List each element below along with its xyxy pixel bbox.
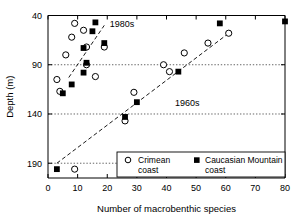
- data-point: [134, 99, 140, 105]
- x-axis-title: Number of macrobenthic species: [97, 203, 236, 214]
- y-tick-label-90: 90: [32, 60, 42, 70]
- trend-line-1980s: [69, 25, 105, 77]
- data-point: [131, 89, 137, 95]
- legend-marker-filled-square: [194, 157, 200, 163]
- y-tick-label-140: 140: [27, 109, 42, 119]
- x-tick-label-10: 10: [73, 183, 83, 193]
- annotation-1960s: 1960s: [175, 98, 200, 108]
- x-tick-label-80: 80: [280, 183, 290, 193]
- data-point: [282, 19, 288, 25]
- trend-line-1960s: [57, 33, 229, 163]
- data-point: [63, 52, 69, 58]
- y-axis-title: Depth (m): [4, 76, 15, 118]
- x-tick-label-0: 0: [45, 183, 50, 193]
- data-point: [69, 34, 75, 40]
- data-point: [226, 30, 232, 36]
- x-tick-label-30: 30: [132, 183, 142, 193]
- data-point: [175, 69, 181, 75]
- x-tick-label-70: 70: [250, 183, 260, 193]
- data-point: [101, 40, 107, 46]
- y-tick-label-190: 190: [27, 159, 42, 169]
- x-tick-label-20: 20: [102, 183, 112, 193]
- data-point: [217, 20, 223, 26]
- series-caucasian-mountain-coast: [54, 19, 288, 173]
- data-point: [90, 28, 96, 34]
- data-point: [181, 50, 187, 56]
- data-point: [84, 60, 90, 66]
- data-point: [166, 69, 172, 75]
- x-tick-label-40: 40: [161, 183, 171, 193]
- data-point: [72, 166, 78, 172]
- data-point: [54, 76, 60, 82]
- data-point: [205, 40, 211, 46]
- data-point: [122, 114, 128, 120]
- data-point: [92, 73, 98, 79]
- scatter-chart-figure: 010203040506070804090140190Number of mac…: [0, 0, 298, 220]
- data-point: [72, 20, 78, 26]
- data-point: [60, 90, 66, 96]
- annotation-1980s: 1980s: [110, 19, 135, 29]
- data-point: [93, 19, 99, 25]
- legend-marker-open-circle: [125, 157, 131, 163]
- data-point: [69, 82, 75, 88]
- data-point: [81, 70, 87, 76]
- data-point: [81, 45, 87, 51]
- legend-label-caucasian-mountain-coast-line2: coast: [205, 165, 226, 175]
- data-point: [160, 62, 166, 68]
- y-tick-label-40: 40: [32, 11, 42, 21]
- series-crimean-coast: [54, 20, 232, 172]
- chart-canvas: 010203040506070804090140190Number of mac…: [0, 0, 298, 220]
- x-tick-label-60: 60: [221, 183, 231, 193]
- x-tick-label-50: 50: [191, 183, 201, 193]
- legend-label-crimean-coast-line1: Crimean: [138, 155, 170, 165]
- data-point: [54, 166, 60, 172]
- legend-label-caucasian-mountain-coast-line1: Caucasian Mountain: [205, 155, 283, 165]
- data-point: [80, 27, 86, 33]
- legend-label-crimean-coast-line2: coast: [138, 165, 159, 175]
